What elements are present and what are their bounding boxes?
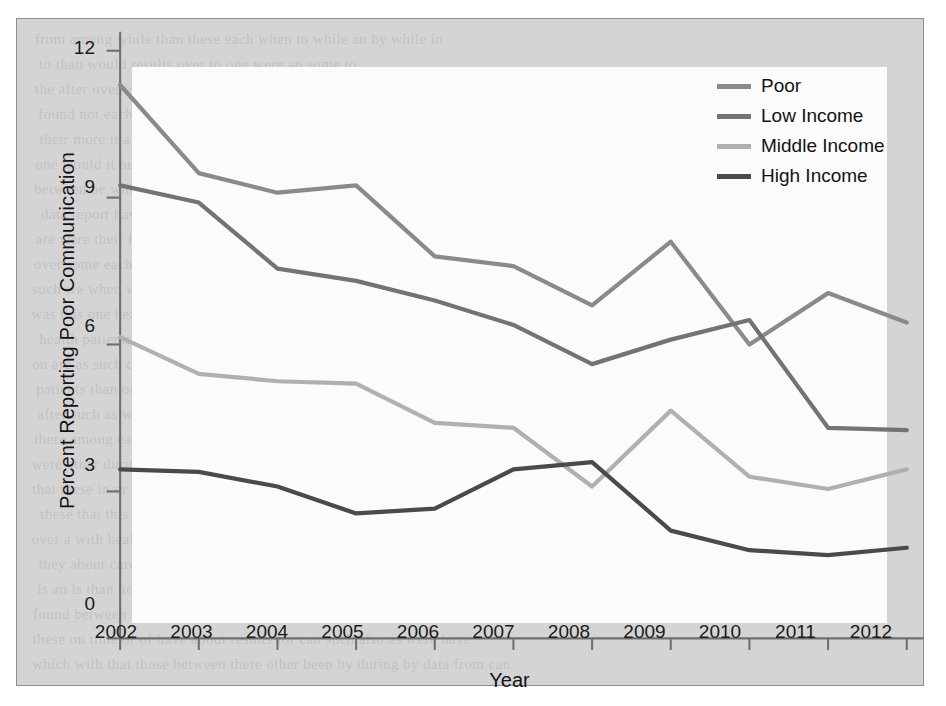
series-line-middle-income [120,337,907,489]
x-axis-tick-label: 2009 [610,621,680,643]
x-axis-title: Year [132,669,887,692]
y-axis-tick-label: 6 [55,315,95,337]
legend-item[interactable]: High Income [717,161,922,191]
y-axis-tick-label: 9 [55,176,95,198]
legend-item-label: Poor [761,75,801,97]
legend-swatch-icon [717,174,751,179]
series-line-low-income [120,185,907,430]
legend-item-label: High Income [761,165,868,187]
x-axis-tick-label: 2002 [81,621,151,643]
legend-item-label: Middle Income [761,135,885,157]
x-axis-tick-label: 2004 [232,621,302,643]
figure-root: from among while than these each when to… [0,0,946,706]
x-axis-tick-label: 2006 [383,621,453,643]
y-axis-tick-label: 12 [55,37,95,59]
x-axis-tick-label: 2012 [836,621,906,643]
series-line-high-income [120,462,907,555]
legend-item[interactable]: Poor [717,71,922,101]
x-axis-tick-label: 2008 [534,621,604,643]
y-axis-tick-label: 3 [55,454,95,476]
legend-swatch-icon [717,144,751,149]
y-axis-tick-label: 0 [55,593,95,615]
legend-item-label: Low Income [761,105,863,127]
x-axis-tick-label: 2011 [761,621,831,643]
chart-legend: PoorLow IncomeMiddle IncomeHigh Income [717,71,922,191]
figure-panel: from among while than these each when to… [16,18,924,686]
x-axis-tick-label: 2003 [157,621,227,643]
legend-swatch-icon [717,114,751,119]
legend-swatch-icon [717,84,751,89]
x-axis-tick-label: 2005 [308,621,378,643]
legend-item[interactable]: Low Income [717,101,922,131]
x-axis-tick-label: 2007 [459,621,529,643]
x-axis-tick-label: 2010 [685,621,755,643]
legend-item[interactable]: Middle Income [717,131,922,161]
